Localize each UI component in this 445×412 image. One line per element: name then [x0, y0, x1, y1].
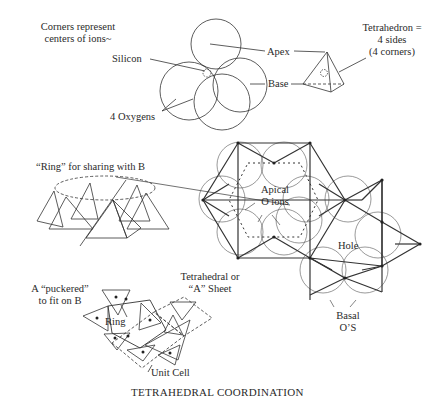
puckered-ring-figure [83, 290, 212, 372]
basal-line1: Basal [328, 310, 368, 322]
hole-label: Hole [338, 240, 358, 252]
basal-label: Basal O’S [328, 310, 368, 334]
apical-label: Apical O ions [250, 184, 300, 208]
puckered-line2: to fit on B [20, 295, 100, 307]
ions-note: Corners represent centers of ions~ [28, 21, 128, 45]
puckered-line1: A “puckered” [20, 283, 100, 295]
sio4-sphere-model [150, 19, 325, 130]
apical-line2: O ions [250, 196, 300, 208]
tetrahedron-figure [303, 52, 366, 92]
unit-cell-label: Unit Cell [151, 367, 190, 379]
diagram-artwork [0, 0, 445, 412]
tetrahedron-note-line1: Tetrahedron = [352, 22, 432, 34]
puckered-note: A “puckered” to fit on B [20, 283, 100, 307]
tetrahedron-note-line2: 4 sides [352, 34, 432, 46]
tetrahedron-note: Tetrahedron = 4 sides (4 corners) [352, 22, 432, 58]
ions-note-line2: centers of ions~ [28, 33, 128, 45]
silicon-label: Silicon [112, 53, 142, 65]
sheet-line2: “A” Sheet [170, 283, 250, 295]
figure-title: TETRAHEDRAL COORDINATION [131, 386, 304, 398]
tetrahedron-note-line3: (4 corners) [352, 46, 432, 58]
apex-label: Apex [267, 46, 290, 58]
ring-label: Ring [105, 316, 125, 328]
basal-line2: O’S [328, 322, 368, 334]
sheet-label: Tetrahedral or “A” Sheet [170, 271, 250, 295]
sheet-line1: Tetrahedral or [170, 271, 250, 283]
apical-line1: Apical [250, 184, 300, 196]
ions-note-line1: Corners represent [28, 21, 128, 33]
ring-sharing-label: “Ring” for sharing with B [36, 161, 145, 173]
oxygens-label: 4 Oxygens [110, 111, 155, 123]
base-label: Base [268, 78, 288, 90]
